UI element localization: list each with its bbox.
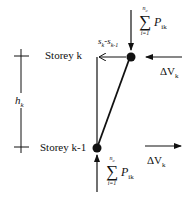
label-storey-k-1: Storey k-1 [40,142,86,153]
node-storey-k [127,53,136,62]
label-height: hk [15,95,24,109]
label-load-bottom: nc ∑ i=1 Pik [104,155,120,186]
deformed-column [97,57,130,148]
label-shear-top: ΔVk [160,66,179,80]
label-load-top: nc ∑ i=1 Pik [137,5,153,36]
label-shear-bottom: ΔVk [147,155,166,169]
node-storey-k-1 [93,144,102,153]
label-drift: sk-sk-1 [98,37,118,48]
label-storey-k: Storey k [45,50,82,61]
